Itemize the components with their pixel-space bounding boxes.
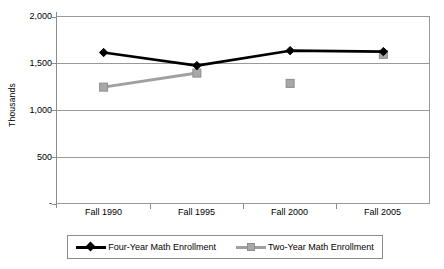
y-tick-label-1000: 1,000 <box>4 106 52 115</box>
y-tick-label-1500: 1,500 <box>4 59 52 68</box>
enrollment-line-chart: Thousands 2,000 1,500 1,000 500 - Fall 1… <box>0 0 444 269</box>
gridline-1500 <box>57 63 429 64</box>
y-axis-tick-labels: 2,000 1,500 1,000 500 - <box>4 0 52 269</box>
legend-label-four-year: Four-Year Math Enrollment <box>108 242 216 252</box>
y-tick-label-zero: - <box>4 199 52 208</box>
y-tick-label-2000: 2,000 <box>4 12 52 21</box>
legend-key-two-year-icon <box>236 241 266 253</box>
gridline-1000 <box>57 110 429 111</box>
x-tick-label-fall-2005: Fall 2005 <box>336 207 429 218</box>
plot-area <box>57 16 430 204</box>
legend-entry-two-year[interactable]: Two-Year Math Enrollment <box>236 241 374 253</box>
legend-key-four-year-icon <box>76 241 106 253</box>
chart-legend: Four-Year Math Enrollment Two-Year Math … <box>67 235 383 259</box>
legend-entry-four-year[interactable]: Four-Year Math Enrollment <box>76 241 216 253</box>
x-tick-label-fall-1995: Fall 1995 <box>150 207 243 218</box>
legend-label-two-year: Two-Year Math Enrollment <box>268 242 374 252</box>
y-tick-label-500: 500 <box>4 153 52 162</box>
gridline-500 <box>57 157 429 158</box>
x-tick-label-fall-2000: Fall 2000 <box>243 207 336 218</box>
x-tick-label-fall-1990: Fall 1990 <box>57 207 150 218</box>
y-tickmark-zero <box>52 204 57 205</box>
